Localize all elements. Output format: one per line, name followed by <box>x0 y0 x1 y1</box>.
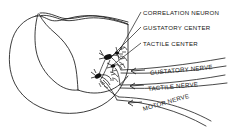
organ-inner-contour <box>35 14 78 90</box>
label-gustatory-center: GUSTATORY CENTER <box>143 25 210 31</box>
label-correlation-neuron: CORRELATION NEURON <box>143 10 219 16</box>
organ-median-cleft <box>39 14 78 90</box>
axon-bundle <box>99 60 119 97</box>
neural-cluster-group <box>91 47 127 100</box>
arrowheads-group <box>128 68 145 106</box>
leader-correlation-neuron <box>117 12 141 55</box>
lower-dendritic-tuft <box>110 70 118 82</box>
anatomical-diagram: CORRELATION NEURON GUSTATORY CENTER TACT… <box>0 0 232 134</box>
organ-outline-group <box>9 13 128 114</box>
label-tactile-center: TACTILE CENTER <box>143 41 198 47</box>
